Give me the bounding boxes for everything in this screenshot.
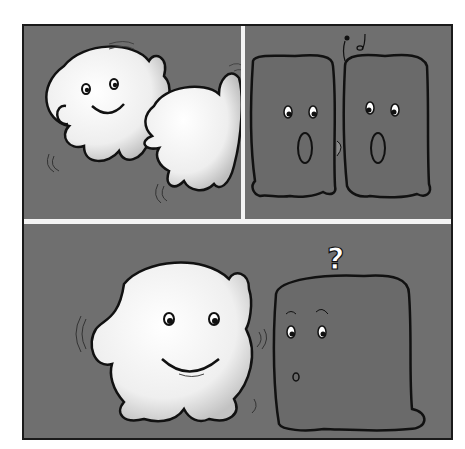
panel-2-art xyxy=(245,26,451,219)
panel-1-art xyxy=(24,26,241,219)
round-blob-smiling xyxy=(76,263,267,422)
square-blob-confused xyxy=(274,276,425,431)
square-blob-right xyxy=(337,55,430,197)
panel-3: ? xyxy=(24,224,451,438)
panel-1 xyxy=(24,26,241,219)
comic-frame: ? xyxy=(22,24,453,440)
panel-2 xyxy=(245,26,451,219)
square-blob-left xyxy=(251,55,335,196)
question-mark-icon: ? xyxy=(327,241,344,276)
panel-3-art: ? xyxy=(24,224,451,438)
round-blob-smiling xyxy=(46,42,169,173)
cropped-caption-strip xyxy=(0,440,465,449)
